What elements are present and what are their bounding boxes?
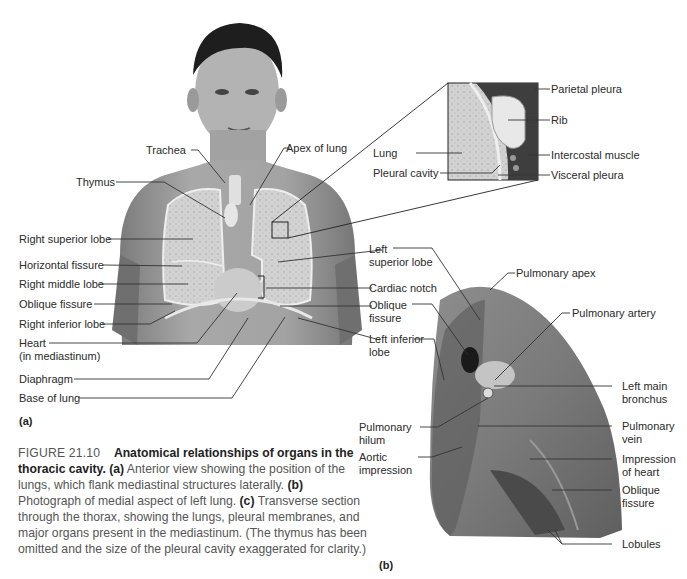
label-trachea: Trachea [146,144,186,157]
label-impression-of-heart-2: of heart [622,466,659,479]
label-left-superior-lobe-2: superior lobe [369,256,433,269]
label-rib: Rib [551,114,568,127]
label-oblique-fissure-b-1: Oblique [622,484,660,497]
label-oblique-fissure-b-2: fissure [622,497,654,510]
label-thymus: Thymus [76,176,115,189]
label-apex-of-lung: Apex of lung [286,142,347,155]
label-heart: Heart [19,337,46,350]
label-impression-of-heart-1: Impression [622,453,676,466]
caption-marker-a: (a) [109,462,124,476]
figure-number: FIGURE 21.10 [18,446,100,460]
panel-label-b: (b) [379,559,393,571]
caption-text-b: Photograph of medial aspect of left lung… [18,494,236,508]
label-left-inferior-lobe-2: lobe [369,346,390,359]
panel-label-a: (a) [19,415,32,427]
label-left-main-bronchus-2: bronchus [622,393,667,406]
label-base-of-lung: Base of lung [19,392,80,405]
label-lung: Lung [373,147,397,160]
label-right-superior-lobe: Right superior lobe [19,233,111,246]
label-horizontal-fissure: Horizontal fissure [19,259,104,272]
torso-illustration [112,23,362,345]
label-pulmonary-vein-1: Pulmonary [622,420,675,433]
label-pulmonary-artery: Pulmonary artery [572,307,656,320]
left-lung-photo [430,287,622,538]
label-left-main-bronchus-1: Left main [622,380,667,393]
label-diaphragm: Diaphragm [19,373,73,386]
label-pleural-cavity: Pleural cavity [373,167,438,180]
label-pulmonary-apex: Pulmonary apex [516,267,596,280]
label-intercostal-muscle: Intercostal muscle [551,149,640,162]
label-oblique-fissure-a-right-2: fissure [369,312,401,325]
label-right-middle-lobe: Right middle lobe [19,278,104,291]
label-oblique-fissure-a: Oblique fissure [19,298,92,311]
label-parietal-pleura: Parietal pleura [551,83,622,96]
figure-caption: FIGURE 21.10 Anatomical relationships of… [18,445,368,557]
label-left-superior-lobe-1: Left [369,243,387,256]
label-lobules: Lobules [622,538,661,551]
caption-marker-c: (c) [240,494,255,508]
label-cardiac-notch: Cardiac notch [369,282,437,295]
label-visceral-pleura: Visceral pleura [551,169,624,182]
label-heart-sub: (in mediastinum) [19,350,100,363]
label-oblique-fissure-a-right-1: Oblique [369,299,407,312]
label-pulmonary-hilum-1: Pulmonary [359,421,412,434]
label-pulmonary-vein-2: vein [622,433,642,446]
caption-marker-b: (b) [287,478,303,492]
label-right-inferior-lobe: Right inferior lobe [19,318,105,331]
label-left-inferior-lobe-1: Left inferior [369,333,424,346]
